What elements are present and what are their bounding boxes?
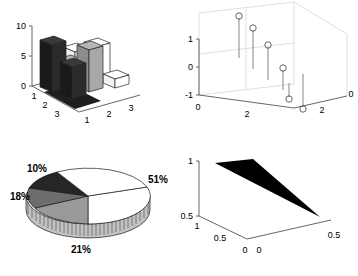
stem3-ztick-neg1: -1: [185, 90, 193, 100]
bar3-xtick-2: 2: [106, 109, 111, 119]
stem3-z-axis: [196, 39, 199, 95]
bar3-z-ticklabels: 10 5 0: [16, 21, 26, 91]
surf3-xtick-1: 1: [194, 221, 199, 231]
bar3-ytick-3: 3: [54, 109, 59, 119]
stem3-markers: [236, 13, 306, 112]
pie3-label-51: 51%: [148, 174, 168, 185]
surf3-ytick-0: 0: [256, 245, 261, 255]
pie3-label-18: 18%: [10, 191, 30, 202]
stem3-y-ticklabels: 2 0: [319, 89, 353, 115]
surf3-z-ticklabels: 1 0.5: [180, 156, 193, 221]
bar3-ytick-2: 2: [42, 100, 47, 110]
stem3-stems: [239, 18, 303, 107]
bar3-ytick-1: 1: [31, 91, 36, 101]
bar3-xtick-3: 3: [128, 103, 133, 113]
surf3-xtick-0p5: 0.5: [214, 233, 227, 243]
stem3-z-ticklabels: 1 0 -1: [185, 34, 193, 100]
stem3-floor-axes: [199, 95, 347, 108]
stem3-ytick-0: 0: [348, 89, 353, 99]
subplot-stem3: 1 0 -1 0 2 2 0: [179, 0, 358, 138]
stem3-xtick-2: 2: [244, 109, 249, 119]
stem3-xtick-0: 0: [195, 102, 200, 112]
bar3-ztick-5: 5: [21, 51, 26, 61]
bar3-z-axis: [29, 26, 32, 86]
bar3-ztick-10: 10: [16, 21, 26, 31]
bar3-ztick-0: 0: [21, 81, 26, 91]
pie3-label-10: 10%: [27, 163, 47, 174]
subplot-surf3: 1 0.5 1 0.5 0 0 0.5: [179, 138, 358, 276]
pie3-top-face: [27, 168, 150, 224]
surf3-ztick-0p5: 0.5: [180, 211, 193, 221]
stem3-box-gridlines: [199, 2, 347, 96]
figure-canvas: 10 5 0 1 2 3 1 2 3: [0, 0, 358, 276]
surf3-surface: [215, 159, 320, 217]
subplot-pie3: 51% 21% 18% 10%: [0, 138, 179, 276]
surf3-ytick-0p5: 0.5: [328, 230, 341, 240]
bar3-bar: [60, 58, 86, 99]
bar3-xtick-1: 1: [84, 115, 89, 125]
surf3-z-axis: [196, 161, 199, 216]
bar3-bar: [103, 70, 129, 88]
pie3-label-21: 21%: [71, 244, 91, 255]
stem3-ztick-1: 1: [188, 34, 193, 44]
stem3-ytick-2: 2: [319, 105, 324, 115]
stem3-ztick-0: 0: [188, 62, 193, 72]
subplot-bar3: 10 5 0 1 2 3 1 2 3: [0, 0, 179, 138]
bar3-x-ticklabels: 1 2 3: [84, 103, 133, 125]
stem3-x-ticklabels: 0 2: [195, 102, 249, 119]
surf3-xtick-0: 0: [242, 245, 247, 255]
surf3-ztick-1: 1: [188, 156, 193, 166]
